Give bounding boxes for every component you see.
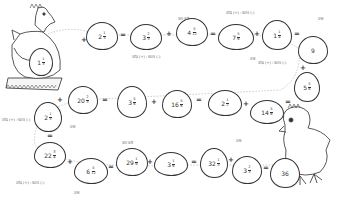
egg-8[interactable]: 556 bbox=[294, 72, 320, 102]
egg-21[interactable]: 36 bbox=[270, 158, 300, 188]
whole-part: 1 bbox=[273, 32, 277, 39]
denominator: 6 bbox=[133, 103, 135, 107]
whole-part: 2 bbox=[44, 114, 48, 121]
whole-part: 1 bbox=[37, 59, 41, 66]
note: जोड़ (+) : घटाव (-) bbox=[226, 10, 254, 15]
equals-sign: = bbox=[102, 96, 108, 104]
equals-sign: = bbox=[191, 158, 197, 166]
mixed-number: 213 bbox=[98, 32, 106, 41]
denominator: 6 bbox=[270, 113, 272, 117]
mixed-number: 113 bbox=[37, 58, 45, 67]
note: उत्तर bbox=[70, 124, 75, 129]
plus-sign: + bbox=[57, 96, 63, 104]
fraction: 56 bbox=[237, 33, 240, 42]
fraction: 56 bbox=[133, 98, 136, 107]
whole-part: 14 bbox=[261, 109, 269, 116]
equals-sign: = bbox=[47, 132, 53, 140]
fraction: 13 bbox=[49, 113, 52, 122]
egg-18[interactable]: 316 bbox=[154, 152, 188, 176]
egg-6[interactable]: 114 bbox=[262, 20, 292, 50]
whole-part: 32 bbox=[208, 160, 216, 167]
equals-sign: = bbox=[210, 30, 216, 38]
fraction: 14 bbox=[278, 31, 281, 40]
fraction: 56 bbox=[180, 100, 183, 109]
fraction: 23 bbox=[248, 166, 251, 175]
egg-9[interactable]: 1456 bbox=[250, 100, 284, 124]
plus-sign: + bbox=[228, 156, 234, 164]
egg-3[interactable]: 323 bbox=[130, 24, 162, 50]
fraction: 512 bbox=[192, 28, 197, 37]
mixed-number: 316 bbox=[167, 160, 175, 169]
mixed-number: 6512 bbox=[86, 167, 95, 176]
fraction: 56 bbox=[308, 83, 311, 92]
egg-10[interactable]: 212 bbox=[208, 90, 242, 116]
denominator: 3 bbox=[217, 164, 219, 168]
egg-4[interactable]: 4512 bbox=[176, 18, 208, 46]
denominator: 6 bbox=[135, 163, 137, 167]
denominator: 3 bbox=[86, 101, 88, 105]
egg-7[interactable]: 9 bbox=[298, 36, 328, 64]
whole-number: 9 bbox=[311, 47, 315, 54]
fraction: 16 bbox=[135, 158, 138, 167]
mixed-number: 114 bbox=[273, 31, 281, 40]
equals-sign: = bbox=[294, 30, 300, 38]
denominator: 3 bbox=[248, 171, 250, 175]
whole-part: 20 bbox=[77, 97, 85, 104]
denominator: 12 bbox=[91, 172, 96, 176]
plus-sign: + bbox=[166, 30, 172, 38]
mixed-number: 3213 bbox=[208, 159, 220, 168]
mixed-number: 1456 bbox=[261, 108, 273, 117]
egg-17[interactable]: 2916 bbox=[116, 148, 148, 176]
note: जोड़ (+) : घटाव (-) bbox=[132, 54, 160, 59]
egg-20[interactable]: 323 bbox=[232, 156, 262, 184]
whole-part: 4 bbox=[187, 29, 191, 36]
mixed-number: 4512 bbox=[187, 28, 196, 37]
fraction: 23 bbox=[86, 96, 89, 105]
plus-sign: + bbox=[151, 98, 157, 106]
egg-2[interactable]: 213 bbox=[86, 22, 118, 50]
fraction: 13 bbox=[103, 32, 106, 41]
note: जोड़ (+) : घटाव (-) bbox=[258, 60, 286, 65]
denominator: 2 bbox=[226, 104, 228, 108]
egg-1[interactable]: 113 bbox=[29, 48, 53, 76]
whole-part: 5 bbox=[303, 84, 307, 91]
denominator: 6 bbox=[237, 38, 239, 42]
egg-13[interactable]: 2023 bbox=[68, 86, 98, 114]
equals-sign: = bbox=[120, 31, 126, 39]
egg-15[interactable]: 2234 bbox=[34, 142, 66, 168]
mixed-number: 2916 bbox=[126, 158, 138, 167]
whole-part: 3 bbox=[128, 99, 132, 106]
plus-sign: + bbox=[147, 158, 153, 166]
mixed-number: 356 bbox=[128, 98, 136, 107]
whole-part: 7 bbox=[232, 34, 236, 41]
whole-part: 3 bbox=[167, 161, 171, 168]
denominator: 3 bbox=[49, 118, 51, 122]
hen-icon bbox=[6, 4, 62, 90]
egg-16[interactable]: 6512 bbox=[74, 158, 108, 184]
whole-part: 22 bbox=[44, 152, 52, 159]
egg-12[interactable]: 356 bbox=[117, 86, 147, 118]
egg-19[interactable]: 3213 bbox=[200, 148, 228, 178]
egg-11[interactable]: 1656 bbox=[162, 90, 192, 118]
fraction: 512 bbox=[91, 167, 96, 176]
whole-part: 2 bbox=[221, 100, 225, 107]
fraction: 56 bbox=[270, 108, 273, 117]
egg-5[interactable]: 756 bbox=[218, 24, 254, 50]
plus-sign: + bbox=[254, 30, 260, 38]
denominator: 3 bbox=[147, 38, 149, 42]
denominator: 6 bbox=[172, 165, 174, 169]
mixed-number: 2023 bbox=[77, 96, 89, 105]
egg-14[interactable]: 213 bbox=[34, 102, 62, 132]
note: जोड़ (+) : घटाव (-) bbox=[16, 180, 44, 185]
mixed-number: 1656 bbox=[171, 100, 183, 109]
whole-part: 3 bbox=[243, 167, 247, 174]
whole-part: 16 bbox=[171, 101, 179, 108]
denominator: 3 bbox=[103, 37, 105, 41]
note: ज्ञात करो bbox=[178, 16, 189, 21]
plus-sign: + bbox=[67, 158, 73, 166]
note: जोड़ (+) : घटाव (-) bbox=[2, 117, 30, 122]
mixed-number: 323 bbox=[142, 33, 150, 42]
denominator: 3 bbox=[42, 63, 44, 67]
equals-sign: = bbox=[263, 164, 269, 172]
note: उत्तर bbox=[250, 56, 255, 61]
